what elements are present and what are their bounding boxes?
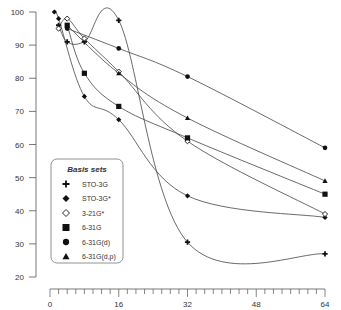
legend-item-label: 3-21G*	[82, 210, 104, 217]
filled-circle-marker-icon	[185, 74, 190, 79]
x-tick-label: 64	[321, 300, 330, 309]
series-line	[67, 25, 325, 181]
y-axis: 2030405060708090100	[11, 8, 36, 282]
legend-item-label: 6-31G	[82, 224, 101, 231]
y-tick-label: 30	[15, 240, 24, 249]
x-axis: 016324864	[48, 289, 330, 309]
filled-circle-marker-icon	[63, 239, 69, 245]
filled-circle-marker-icon	[323, 145, 328, 150]
filled-diamond-marker-icon	[82, 94, 87, 99]
filled-triangle-marker-icon	[322, 178, 327, 183]
series-line	[67, 29, 325, 148]
y-tick-label: 100	[11, 8, 25, 17]
legend-title: Basis sets	[67, 165, 107, 174]
filled-square-marker-icon	[82, 71, 87, 76]
filled-circle-marker-icon	[116, 46, 121, 51]
filled-square-marker-icon	[116, 104, 121, 109]
y-tick-label: 50	[15, 174, 24, 183]
filled-diamond-marker-icon	[56, 16, 61, 21]
legend: Basis sets STO-3GSTO-3G*3-21G*6-31G6-31G…	[51, 159, 123, 263]
y-tick-label: 20	[15, 273, 24, 282]
x-tick-label: 32	[183, 300, 192, 309]
y-tick-label: 60	[15, 141, 24, 150]
x-tick-label: 0	[48, 300, 53, 309]
x-tick-label: 16	[114, 300, 123, 309]
filled-square-marker-icon	[322, 192, 327, 197]
plus-marker-icon	[116, 18, 121, 23]
y-tick-label: 80	[15, 74, 24, 83]
filled-square-marker-icon	[63, 224, 70, 231]
filled-diamond-marker-icon	[185, 193, 190, 198]
line-chart: 2030405060708090100 016324864 Basis sets…	[0, 0, 341, 310]
legend-item-label: STO-3G	[82, 181, 108, 188]
legend-item-label: STO-3G*	[82, 195, 111, 202]
legend-item-label: 6-31G(d)	[82, 239, 110, 247]
y-tick-label: 70	[15, 107, 24, 116]
plus-marker-icon	[322, 251, 327, 256]
open-diamond-marker-icon	[322, 211, 327, 216]
filled-square-marker-icon	[185, 135, 190, 140]
filled-triangle-marker-icon	[185, 115, 190, 120]
legend-item-label: 6-31G(d,p)	[82, 253, 116, 261]
x-tick-label: 48	[252, 300, 261, 309]
open-diamond-marker-icon	[65, 16, 70, 21]
y-tick-label: 90	[15, 41, 24, 50]
filled-diamond-marker-icon	[52, 9, 57, 14]
y-tick-label: 40	[15, 207, 24, 216]
